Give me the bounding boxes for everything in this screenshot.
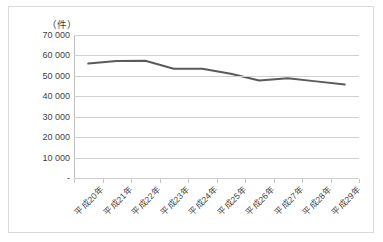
- y-axis-tick-labels: 70 00060 00050 00040 00030 00020 00010 0…: [9, 35, 70, 178]
- y-tick-label: 70 000: [14, 30, 70, 40]
- x-category-label-text: 平成27年: [271, 183, 305, 217]
- x-category-label: 平成21年: [100, 183, 134, 217]
- series-line-kensuu: [88, 61, 345, 85]
- x-category-label: 平成23年: [157, 183, 191, 217]
- x-category-label: 平成27年: [271, 183, 305, 217]
- y-gridline: [74, 76, 359, 77]
- x-category-label-text: 平成21年: [100, 183, 134, 217]
- x-category-label: 平成26年: [242, 183, 276, 217]
- x-category-label-text: 平成24年: [185, 183, 219, 217]
- series-line-chart: [74, 35, 359, 178]
- x-category-label-text: 平成23年: [157, 183, 191, 217]
- x-category-label-text: 平成22年: [128, 183, 162, 217]
- x-category-label: 平成24年: [185, 183, 219, 217]
- y-gridline: [74, 137, 359, 138]
- y-tick-label: 60 000: [14, 50, 70, 60]
- x-category-label: 平成20年: [71, 183, 105, 217]
- x-category-label: 平成28年: [299, 183, 333, 217]
- y-gridline: [74, 96, 359, 97]
- plot-area: [74, 35, 359, 178]
- y-tick-label: 50 000: [14, 71, 70, 81]
- x-category-label-text: 平成28年: [299, 183, 333, 217]
- y-tick-label: 10 000: [14, 153, 70, 163]
- x-category-label-text: 平成26年: [242, 183, 276, 217]
- x-category-label: 平成22年: [128, 183, 162, 217]
- chart-container: （件） 70 00060 00050 00040 00030 00020 000…: [8, 6, 374, 233]
- x-category-label-text: 平成25年: [214, 183, 248, 217]
- y-tick-label: 20 000: [14, 132, 70, 142]
- y-tick-label: -: [14, 173, 70, 183]
- x-category-label-text: 平成29年: [328, 183, 362, 217]
- x-tick-mark: [359, 179, 360, 183]
- y-gridline: [74, 158, 359, 159]
- y-gridline: [74, 35, 359, 36]
- y-tick-label: 30 000: [14, 112, 70, 122]
- x-category-label: 平成29年: [328, 183, 362, 217]
- y-gridline: [74, 117, 359, 118]
- x-category-label-text: 平成20年: [71, 183, 105, 217]
- x-axis-category-labels: 平成20年平成21年平成22年平成23年平成24年平成25年平成26年平成27年…: [74, 183, 359, 235]
- y-gridline: [74, 55, 359, 56]
- y-tick-label: 40 000: [14, 91, 70, 101]
- x-category-label: 平成25年: [214, 183, 248, 217]
- y-axis-unit-label: （件）: [47, 17, 77, 31]
